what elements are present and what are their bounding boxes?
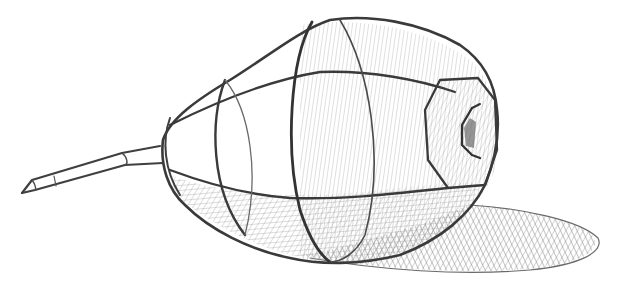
pear-sketch	[0, 0, 619, 296]
stem	[22, 146, 163, 193]
blossom-end	[425, 78, 497, 188]
pear-drawing	[0, 0, 619, 296]
